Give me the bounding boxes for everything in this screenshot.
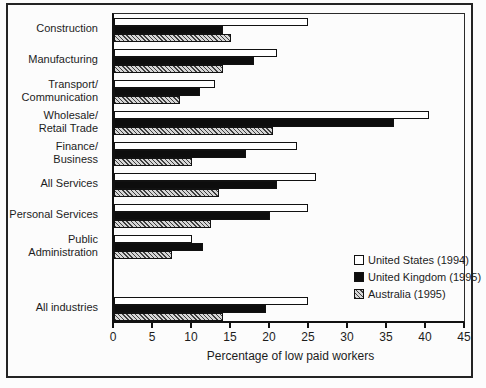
bar-uk xyxy=(114,212,270,220)
x-tick-label: 45 xyxy=(449,330,479,344)
bar-uk xyxy=(114,119,394,127)
chart-frame: ConstructionManufacturingTransport/ Comm… xyxy=(6,3,473,378)
legend-label: Australia (1995) xyxy=(368,288,446,300)
bar-au xyxy=(114,158,192,166)
legend-label: United Kingdom (1995) xyxy=(368,271,481,283)
category-label: Public Administration xyxy=(8,230,105,261)
category-label: Manufacturing xyxy=(8,44,105,75)
x-tick xyxy=(424,323,426,328)
bar-uk xyxy=(114,181,277,189)
bar-us xyxy=(114,111,429,119)
category-label-blank xyxy=(8,261,105,292)
bar-au xyxy=(114,189,219,197)
bar-group xyxy=(114,14,464,45)
x-tick-label: 25 xyxy=(293,330,323,344)
bar-au xyxy=(114,65,223,73)
legend-label: United States (1994) xyxy=(368,254,469,266)
category-label: Transport/ Communication xyxy=(8,75,105,106)
x-tick xyxy=(190,323,192,328)
scanned-figure-page: ConstructionManufacturingTransport/ Comm… xyxy=(0,0,486,388)
bar-uk xyxy=(114,243,203,251)
bar-us xyxy=(114,49,277,57)
legend-entry-uk: United Kingdom (1995) xyxy=(354,268,481,285)
legend-marker-us xyxy=(354,255,364,265)
category-label: All Services xyxy=(8,168,105,199)
x-tick-label: 10 xyxy=(176,330,206,344)
bar-uk xyxy=(114,57,254,65)
category-label: Wholesale/ Retail Trade xyxy=(8,106,105,137)
bar-uk xyxy=(114,26,223,34)
bar-au xyxy=(114,220,211,228)
bar-au xyxy=(114,251,172,259)
legend-entry-au: Australia (1995) xyxy=(354,285,481,302)
legend: United States (1994)United Kingdom (1995… xyxy=(354,251,481,302)
bar-us xyxy=(114,80,215,88)
category-axis: ConstructionManufacturingTransport/ Comm… xyxy=(8,13,105,323)
bar-au xyxy=(114,34,231,42)
x-tick xyxy=(463,323,465,328)
category-label: Construction xyxy=(8,13,105,44)
bar-group xyxy=(114,138,464,169)
x-tick xyxy=(112,323,114,328)
x-tick-label: 5 xyxy=(137,330,167,344)
x-tick xyxy=(385,323,387,328)
bar-group xyxy=(114,107,464,138)
x-tick-label: 0 xyxy=(98,330,128,344)
x-tick xyxy=(268,323,270,328)
bar-us xyxy=(114,235,192,243)
bar-us xyxy=(114,297,308,305)
x-tick-label: 40 xyxy=(410,330,440,344)
bar-us xyxy=(114,18,308,26)
bar-group xyxy=(114,45,464,76)
x-tick-label: 20 xyxy=(254,330,284,344)
x-tick xyxy=(151,323,153,328)
bar-us xyxy=(114,173,316,181)
bar-au xyxy=(114,127,273,135)
bar-au xyxy=(114,96,180,104)
bar-us xyxy=(114,204,308,212)
bar-group xyxy=(114,169,464,200)
x-tick xyxy=(307,323,309,328)
category-label: All industries xyxy=(8,292,105,323)
legend-entry-us: United States (1994) xyxy=(354,251,481,268)
x-axis-title: Percentage of low paid workers xyxy=(114,349,467,363)
category-label: Personal Services xyxy=(8,199,105,230)
category-label: Finance/ Business xyxy=(8,137,105,168)
bar-group xyxy=(114,76,464,107)
legend-marker-au xyxy=(354,289,364,299)
bar-uk xyxy=(114,150,246,158)
x-tick-label: 35 xyxy=(371,330,401,344)
bar-uk xyxy=(114,88,200,96)
bar-uk xyxy=(114,305,266,313)
x-tick-label: 30 xyxy=(332,330,362,344)
x-tick xyxy=(229,323,231,328)
x-tick xyxy=(346,323,348,328)
bar-au xyxy=(114,313,223,321)
bar-group xyxy=(114,200,464,231)
x-tick-label: 15 xyxy=(215,330,245,344)
bar-us xyxy=(114,142,297,150)
legend-marker-uk xyxy=(354,272,364,282)
